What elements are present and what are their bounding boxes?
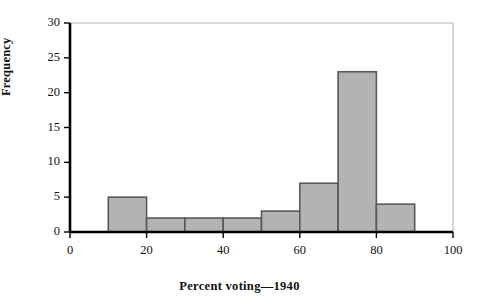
x-tick-label: 80 — [356, 244, 396, 257]
y-tick-label: 5 — [30, 190, 60, 203]
x-tick-label: 20 — [127, 244, 167, 257]
bar-group — [108, 72, 414, 232]
y-tick-label: 10 — [30, 155, 60, 168]
y-tick-label: 15 — [30, 121, 60, 134]
y-tick-label: 30 — [30, 16, 60, 29]
histogram-bar — [338, 72, 376, 232]
x-tick-label: 0 — [50, 244, 90, 257]
histogram-figure: Frequency Percent voting—1940 0510152025… — [0, 0, 479, 305]
plot-area — [0, 0, 479, 305]
histogram-bar — [147, 218, 185, 232]
x-tick-label: 60 — [280, 244, 320, 257]
histogram-bar — [108, 197, 146, 232]
x-tick-label: 100 — [433, 244, 473, 257]
histogram-bar — [300, 183, 338, 232]
y-tick-label: 20 — [30, 86, 60, 99]
x-tick-label: 40 — [203, 244, 243, 257]
histogram-bar — [223, 218, 261, 232]
y-tick-label: 25 — [30, 51, 60, 64]
histogram-bar — [185, 218, 223, 232]
histogram-bar — [376, 204, 414, 232]
y-tick-label: 0 — [30, 225, 60, 238]
histogram-bar — [262, 211, 300, 232]
